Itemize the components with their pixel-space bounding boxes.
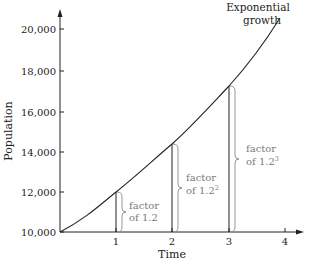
y-axis-arrow-icon bbox=[58, 9, 63, 17]
y-axis-title: Population bbox=[2, 101, 15, 160]
y-tick-label: 10,000 bbox=[21, 227, 56, 238]
x-axis-arrow-icon bbox=[296, 230, 304, 235]
x-ticks: 1 2 3 4 bbox=[113, 228, 288, 247]
factor-label-1-line2: of 1.2 bbox=[129, 212, 158, 223]
axes bbox=[58, 9, 305, 235]
factor-label-1-line1: factor bbox=[129, 200, 159, 211]
x-tick-label: 3 bbox=[226, 236, 232, 247]
factor-label-2-line1: factor bbox=[186, 172, 216, 183]
y-tick-label: 20,000 bbox=[21, 24, 56, 35]
curve-label-line1: Exponential bbox=[226, 1, 290, 13]
brace-icon bbox=[230, 86, 239, 232]
brace-icon bbox=[173, 144, 182, 232]
factor-label-3-line1: factor bbox=[246, 143, 276, 154]
y-tick-label: 14,000 bbox=[21, 147, 56, 158]
y-ticks: 10,000 12,000 14,000 16,000 18,000 20,00… bbox=[21, 24, 64, 238]
y-tick-label: 12,000 bbox=[21, 187, 56, 198]
factor-label-2-line2: of 1.22 bbox=[186, 184, 219, 196]
factor-label-3-line2: of 1.23 bbox=[246, 155, 279, 167]
y-tick-label: 18,000 bbox=[21, 66, 56, 77]
x-tick-label: 2 bbox=[169, 236, 175, 247]
x-tick-label: 4 bbox=[282, 236, 288, 247]
x-axis-title: Time bbox=[158, 248, 186, 261]
exponential-growth-chart: 10,000 12,000 14,000 16,000 18,000 20,00… bbox=[0, 0, 313, 268]
exponential-curve-line bbox=[60, 18, 280, 232]
curve-label-line2: growth bbox=[243, 14, 281, 26]
brace-icon bbox=[117, 192, 126, 232]
y-tick-label: 16,000 bbox=[21, 107, 56, 118]
x-tick-label: 1 bbox=[113, 236, 119, 247]
